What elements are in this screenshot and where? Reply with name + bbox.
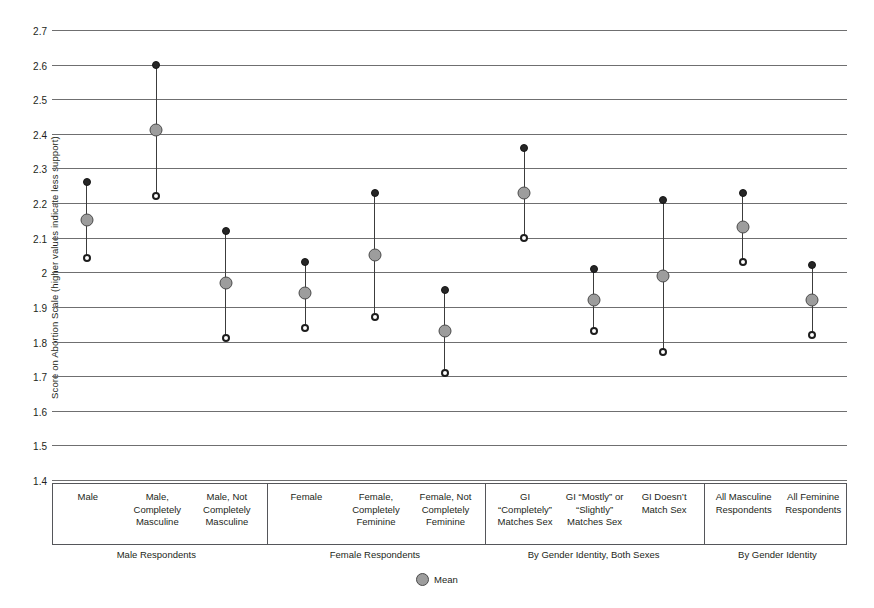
- category-label-text: Female: [291, 491, 323, 504]
- upper-bound-marker: [152, 61, 160, 69]
- category-label: GI Doesn’tMatch Sex: [629, 484, 699, 544]
- mean-marker: [80, 214, 93, 227]
- y-tick-label: 2.5: [33, 95, 47, 106]
- panel-divider: [485, 484, 486, 544]
- category-axis-box: MaleMale,CompletelyMasculineMale, NotCom…: [52, 483, 847, 545]
- lower-bound-marker: [222, 334, 230, 342]
- upper-bound-marker: [590, 265, 598, 273]
- lower-bound-marker: [739, 258, 747, 266]
- category-label-text: GI“Completely”Matches Sex: [498, 491, 553, 529]
- y-tick-label: 2.4: [33, 129, 47, 140]
- y-tick-label: 2: [41, 268, 47, 279]
- lower-bound-marker: [83, 254, 91, 262]
- gridline: 2.1: [52, 238, 847, 239]
- category-label: Female,CompletelyFeminine: [341, 484, 411, 544]
- category-label-text: Male,CompletelyMasculine: [134, 491, 182, 529]
- category-label-text: GI “Mostly” or“Slightly”Matches Sex: [566, 491, 624, 529]
- category-label: GI“Completely”Matches Sex: [490, 484, 560, 544]
- lower-bound-marker: [441, 369, 449, 377]
- mean-marker: [587, 294, 600, 307]
- y-tick-label: 1.8: [33, 337, 47, 348]
- mean-marker-icon: [416, 573, 429, 586]
- category-label: All FeminineRespondents: [778, 484, 848, 544]
- gridline: 2.6: [52, 65, 847, 66]
- abortion-scale-chart: Score on Abortion Scale (higher values i…: [0, 0, 874, 608]
- gridline: 1.8: [52, 342, 847, 343]
- gridline: 2.7: [52, 30, 847, 31]
- panel-label: Male Respondents: [52, 549, 261, 560]
- panel-divider: [704, 484, 705, 544]
- upper-bound-marker: [222, 227, 230, 235]
- category-label-text: Male, NotCompletelyMasculine: [203, 491, 251, 529]
- panel-label: By Gender Identity: [708, 549, 847, 560]
- mean-marker: [518, 186, 531, 199]
- upper-bound-marker: [808, 261, 816, 269]
- mean-marker: [299, 287, 312, 300]
- category-label: Female, NotCompletelyFeminine: [411, 484, 481, 544]
- panel-divider: [267, 484, 268, 544]
- lower-bound-marker: [520, 234, 528, 242]
- upper-bound-marker: [83, 178, 91, 186]
- gridline: 1.4: [52, 480, 847, 481]
- plot-area: 2.72.62.52.42.32.22.121.91.81.71.61.51.4: [52, 30, 847, 480]
- gridline: 1.7: [52, 376, 847, 377]
- gridline: 2.3: [52, 168, 847, 169]
- y-tick-label: 2.1: [33, 233, 47, 244]
- mean-marker: [806, 294, 819, 307]
- lower-bound-marker: [659, 348, 667, 356]
- y-tick-label: 2.3: [33, 164, 47, 175]
- upper-bound-marker: [371, 189, 379, 197]
- category-label-text: All MasculineRespondents: [716, 491, 772, 516]
- lower-bound-marker: [808, 331, 816, 339]
- lower-bound-marker: [152, 192, 160, 200]
- category-label-text: Female,CompletelyFeminine: [352, 491, 400, 529]
- upper-bound-marker: [520, 144, 528, 152]
- category-label-text: All FeminineRespondents: [785, 491, 841, 516]
- y-tick-label: 1.5: [33, 441, 47, 452]
- y-tick-label: 2.6: [33, 60, 47, 71]
- y-tick-label: 1.7: [33, 372, 47, 383]
- panel-label: Female Respondents: [271, 549, 480, 560]
- category-label: All MasculineRespondents: [709, 484, 779, 544]
- y-tick-label: 1.9: [33, 302, 47, 313]
- lower-bound-marker: [301, 324, 309, 332]
- y-tick-label: 2.2: [33, 199, 47, 210]
- upper-bound-marker: [441, 286, 449, 294]
- upper-bound-marker: [659, 196, 667, 204]
- category-label-text: Male: [77, 491, 98, 504]
- gridline: 1.6: [52, 411, 847, 412]
- mean-marker: [219, 276, 232, 289]
- gridline: 2.2: [52, 203, 847, 204]
- category-label-text: Female, NotCompletelyFeminine: [420, 491, 472, 529]
- mean-marker: [736, 221, 749, 234]
- panel-label: By Gender Identity, Both Sexes: [489, 549, 698, 560]
- mean-marker: [368, 249, 381, 262]
- category-label: Male,CompletelyMasculine: [123, 484, 193, 544]
- gridline: 2.4: [52, 134, 847, 135]
- gridline: 1.5: [52, 445, 847, 446]
- gridline: 2: [52, 272, 847, 273]
- category-label-text: GI Doesn’tMatch Sex: [642, 491, 687, 516]
- category-label: Male, NotCompletelyMasculine: [192, 484, 262, 544]
- mean-marker: [438, 325, 451, 338]
- mean-marker: [657, 269, 670, 282]
- lower-bound-marker: [371, 313, 379, 321]
- lower-bound-marker: [590, 327, 598, 335]
- gridline: 1.9: [52, 307, 847, 308]
- chart-legend: Mean: [0, 573, 874, 586]
- category-label: GI “Mostly” or“Slightly”Matches Sex: [560, 484, 630, 544]
- mean-marker: [150, 124, 163, 137]
- upper-bound-marker: [739, 189, 747, 197]
- upper-bound-marker: [301, 258, 309, 266]
- category-label: Female: [272, 484, 342, 544]
- y-tick-label: 1.4: [33, 476, 47, 487]
- gridline: 2.5: [52, 99, 847, 100]
- category-label: Male: [53, 484, 123, 544]
- legend-label-mean: Mean: [434, 574, 458, 585]
- y-tick-label: 1.6: [33, 406, 47, 417]
- y-tick-label: 2.7: [33, 26, 47, 37]
